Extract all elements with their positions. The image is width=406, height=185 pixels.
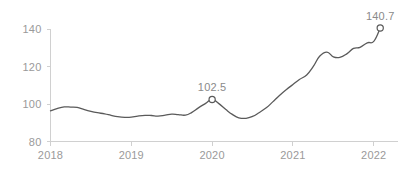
x-axis-tick-labels: 20182019202020212022 [38, 149, 387, 161]
series-line [51, 28, 381, 118]
x-axis-tick-label: 2022 [361, 149, 386, 161]
y-axis-tick-marks [47, 29, 51, 141]
x-axis-tick-label: 2021 [280, 149, 305, 161]
data-point-marker[interactable] [377, 25, 383, 31]
y-axis-tick-label: 120 [23, 61, 42, 73]
y-axis-tick-label: 80 [29, 136, 42, 148]
x-axis: 20182019202020212022 [38, 142, 398, 161]
data-series-group [51, 28, 381, 118]
data-point-label: 140.7 [366, 10, 395, 22]
line-chart: 80100120140 20182019202020212022 102.514… [0, 0, 406, 185]
y-axis: 80100120140 [23, 23, 51, 147]
y-axis-tick-label: 100 [23, 98, 42, 110]
chart-canvas: 80100120140 20182019202020212022 102.514… [0, 0, 406, 185]
annotation-group: 102.5140.7 [198, 10, 395, 103]
x-axis-tick-label: 2020 [199, 149, 224, 161]
x-axis-tick-label: 2018 [38, 149, 63, 161]
x-axis-tick-label: 2019 [119, 149, 144, 161]
y-axis-tick-label: 140 [23, 23, 42, 35]
data-point-label: 102.5 [198, 81, 227, 93]
y-axis-tick-labels: 80100120140 [23, 23, 42, 147]
data-point-marker[interactable] [209, 96, 215, 102]
x-axis-tick-marks [51, 142, 374, 146]
